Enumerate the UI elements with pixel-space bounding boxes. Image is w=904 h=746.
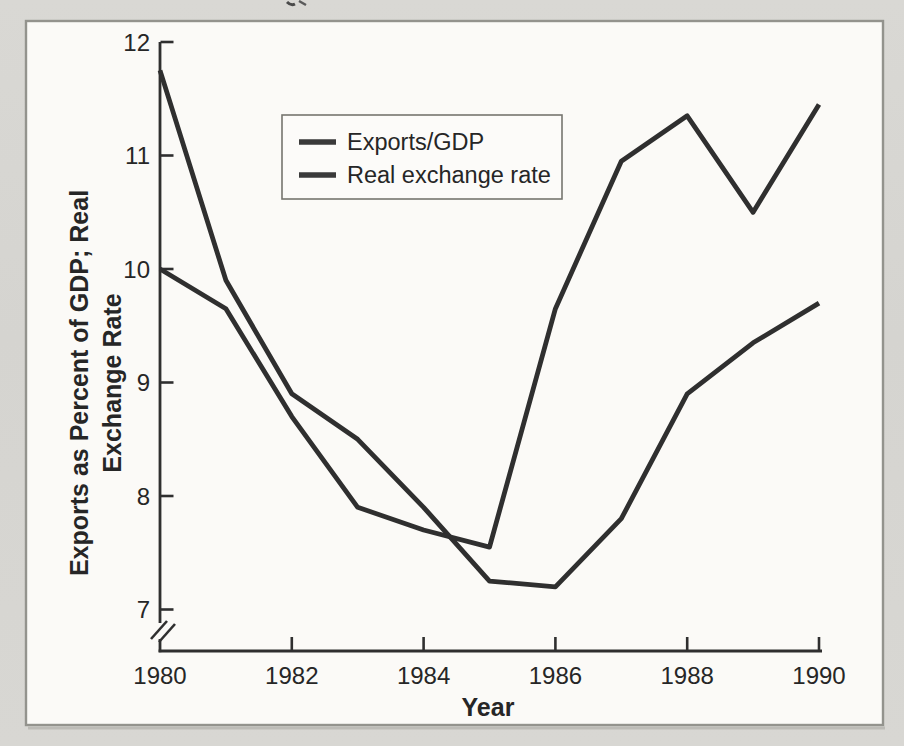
x-tick-label: 1990 <box>792 662 845 689</box>
panel-shadow <box>28 727 885 730</box>
y-axis-title-line1: Exports as Percent of GDP; Real <box>65 190 93 576</box>
legend-label-real-exchange-rate: Real exchange rate <box>347 162 551 188</box>
y-tick-label: 11 <box>125 142 150 169</box>
y-tick-label: 8 <box>137 483 150 510</box>
scanned-chart-figure: 121110987 198019821984198619881990 Expor… <box>0 0 904 746</box>
x-tick-label: 1986 <box>529 662 582 689</box>
y-tick-label: 10 <box>123 256 150 283</box>
y-tick-label: 7 <box>137 596 150 623</box>
cropped-text-artifact <box>287 1 306 5</box>
x-tick-label: 1980 <box>133 662 186 689</box>
legend-label-exports-gdp: Exports/GDP <box>347 129 484 155</box>
y-tick-label: 12 <box>123 29 150 56</box>
x-tick-label: 1982 <box>265 662 318 689</box>
x-tick-label: 1988 <box>661 662 714 689</box>
x-axis-title: Year <box>462 693 515 721</box>
x-tick-label: 1984 <box>397 662 450 689</box>
y-tick-label: 9 <box>137 369 150 396</box>
legend: Exports/GDP Real exchange rate <box>282 115 562 199</box>
y-axis-title-line2: Exchange Rate <box>98 293 126 472</box>
